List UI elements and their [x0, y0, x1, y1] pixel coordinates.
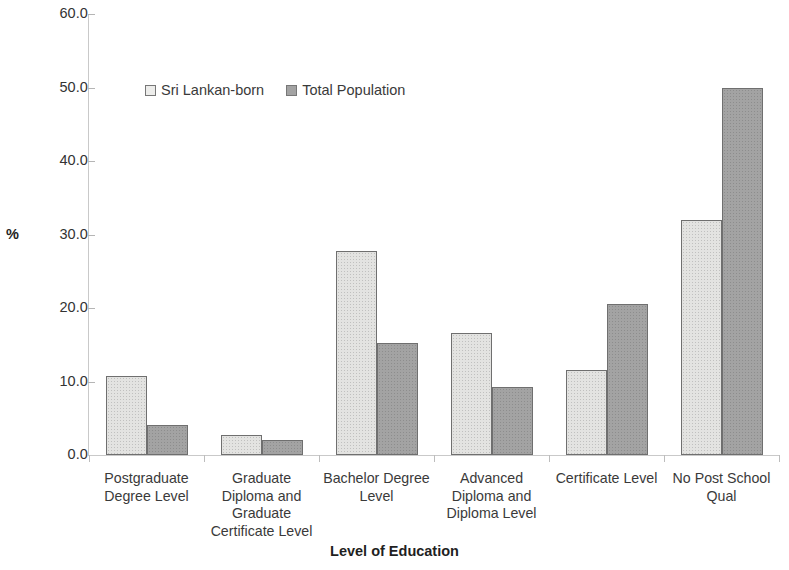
x-axis-tick-mark [89, 455, 90, 462]
y-axis-tick-label: 0.0 [32, 446, 88, 462]
x-axis-category-label-line: Diploma and [434, 488, 549, 506]
x-axis-category-label-line: Level [319, 488, 434, 506]
bar [336, 251, 377, 455]
y-axis-tick-label: 30.0 [32, 226, 88, 242]
x-axis-title: Level of Education [0, 543, 789, 559]
bar-chart: 60.050.040.030.020.010.00.0 % Sri Lankan… [0, 0, 789, 570]
bar [106, 376, 147, 455]
dark-swatch-icon [286, 85, 297, 96]
x-axis-category-label: AdvancedDiploma andDiploma Level [434, 470, 549, 523]
x-axis-tick-mark [319, 455, 320, 462]
y-axis-tick-label: 50.0 [32, 79, 88, 95]
bar [492, 387, 533, 455]
x-axis-category-label-line: Graduate [204, 470, 319, 488]
legend-label: Sri Lankan-born [161, 82, 264, 98]
bar [221, 435, 262, 455]
x-axis-category-label-line: Postgraduate [89, 470, 204, 488]
legend-label: Total Population [302, 82, 405, 98]
bar [722, 88, 763, 456]
y-axis-tick-label: 60.0 [32, 5, 88, 21]
x-axis-category-label-line: Certificate Level [549, 470, 664, 488]
bar [607, 304, 648, 455]
light-swatch-icon [145, 85, 156, 96]
x-axis-category-label-line: Bachelor Degree [319, 470, 434, 488]
x-axis-category-label-line: No Post School [664, 470, 779, 488]
bar [566, 370, 607, 455]
x-axis-category-label-line: Diploma Level [434, 505, 549, 523]
legend-entry: Total Population [286, 82, 405, 98]
x-axis-category-label: Bachelor DegreeLevel [319, 470, 434, 505]
bar [377, 343, 418, 455]
plot-area [89, 14, 779, 455]
x-axis-tick-mark [664, 455, 665, 462]
x-axis-category-label-line: Qual [664, 488, 779, 506]
y-axis-tick-label: 10.0 [32, 373, 88, 389]
x-axis-category-label: Certificate Level [549, 470, 664, 488]
x-axis-tick-mark [549, 455, 550, 462]
x-axis-category-label-line: Diploma and [204, 488, 319, 506]
y-axis-tick-label: 20.0 [32, 299, 88, 315]
x-axis-category-label: No Post SchoolQual [664, 470, 779, 505]
x-axis-category-label-line: Graduate [204, 505, 319, 523]
chart-legend: Sri Lankan-bornTotal Population [145, 82, 405, 98]
x-axis-category-label: PostgraduateDegree Level [89, 470, 204, 505]
bar [147, 425, 188, 455]
x-axis-category-label-line: Degree Level [89, 488, 204, 506]
y-axis-label: % [6, 226, 19, 242]
bar [451, 333, 492, 455]
legend-entry: Sri Lankan-born [145, 82, 264, 98]
y-axis-tick-label: 40.0 [32, 152, 88, 168]
x-axis-category-label: GraduateDiploma andGraduateCertificate L… [204, 470, 319, 540]
x-axis-tick-mark [204, 455, 205, 462]
x-axis-category-label-line: Advanced [434, 470, 549, 488]
x-axis-tick-mark [434, 455, 435, 462]
x-axis-category-label-line: Certificate Level [204, 523, 319, 541]
x-axis-tick-mark [779, 455, 780, 462]
bar [681, 220, 722, 455]
bar [262, 440, 303, 455]
